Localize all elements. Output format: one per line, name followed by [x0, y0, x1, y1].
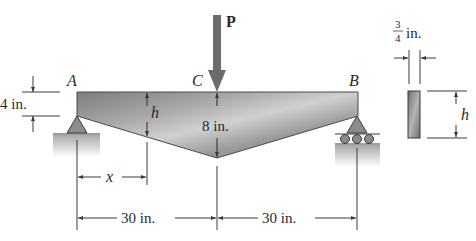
point-a-label: A: [66, 72, 77, 89]
cross-section: 3 4 in. h: [393, 18, 469, 138]
load-label: P: [226, 13, 236, 30]
variable-depth-label: h: [151, 104, 159, 121]
width-unit: in.: [406, 25, 421, 41]
load-arrow-p: [208, 15, 226, 92]
center-depth-label: 8 in.: [202, 118, 229, 134]
point-c-label: C: [192, 72, 203, 89]
end-depth-dimension: [22, 76, 60, 132]
span-right-label: 30 in.: [262, 210, 296, 226]
end-depth-label: 4 in.: [0, 96, 27, 112]
section-height-label: h: [461, 106, 469, 123]
width-denominator: 4: [395, 32, 401, 44]
width-numerator: 3: [395, 18, 401, 30]
beam-diagram: P A C B 4 in. h 8 in.: [0, 0, 476, 241]
point-b-label: B: [349, 72, 359, 89]
x-label: x: [105, 168, 113, 185]
span-left-label: 30 in.: [121, 210, 155, 226]
